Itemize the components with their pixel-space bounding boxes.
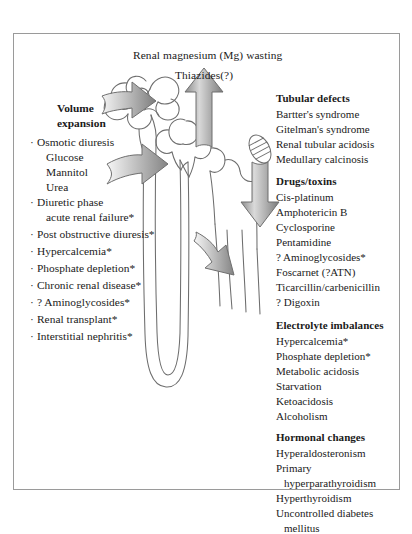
list-item-label: Glucose (46, 152, 83, 163)
section-item: Pentamidine (276, 237, 331, 248)
section-item: Metabolic acidosis (276, 366, 359, 377)
list-item: · (30, 297, 34, 308)
section-item: ? Aminoglycosides* (276, 252, 366, 263)
section-item: Hyperaldosteronism (276, 448, 366, 459)
section-item: Cyclosporine (276, 222, 335, 233)
list-item-label: Post obstructive diuresis* (37, 229, 155, 240)
section-item: Amphotericin B (276, 207, 347, 218)
section-item: Alcoholism (276, 411, 328, 422)
section-item: Phosphate depletion* (276, 351, 371, 362)
list-item: · (30, 331, 34, 342)
volume-expansion-arrow-upper (102, 82, 156, 118)
list-item-label: Diuretic phase (37, 197, 103, 208)
list-item: · (30, 137, 34, 148)
list-item-label: Osmotic diuresis (37, 137, 114, 148)
section-heading: Electrolyte imbalances (276, 320, 384, 331)
section-item: Hyperthyroidism (276, 493, 351, 504)
list-item-label: Interstitial nephritis* (37, 331, 133, 342)
section-heading: Drugs/toxins (276, 176, 337, 187)
list-item: · (30, 280, 34, 291)
list-item-label: Hypercalcemia* (37, 246, 112, 257)
section-item: Renal tubular acidosis (276, 139, 374, 150)
list-item: · (30, 263, 34, 274)
list-item-label: Chronic renal disease* (37, 280, 141, 291)
volume-expansion-arrow-middle (107, 144, 168, 184)
section-item: Gitelman's syndrome (276, 124, 370, 135)
list-item-label: Renal transplant* (37, 314, 117, 325)
list-item-label: Urea (46, 182, 68, 193)
list-item: · (30, 314, 34, 325)
drugs-toxins-arrow-down (241, 162, 279, 227)
section-item: hyperparathyroidism (284, 478, 376, 489)
section-item: Primary (276, 463, 312, 474)
section-item: mellitus (284, 523, 320, 534)
list-item: · (30, 229, 34, 240)
volume-expansion-heading-line2: expansion (57, 118, 106, 129)
section-item: Starvation (276, 381, 321, 392)
list-item-label: acute renal failure* (46, 212, 134, 223)
loop-arrow-lower (194, 232, 234, 275)
list-item: · (30, 197, 34, 208)
tubule-segment-marker (245, 131, 276, 166)
figure-title-line2: Thiazides(?) (175, 70, 233, 81)
list-item-label: Mannitol (46, 167, 88, 178)
section-item: Foscarnet (?ATN) (276, 267, 355, 278)
section-heading: Hormonal changes (276, 432, 365, 443)
section-item: Hypercalcemia* (276, 336, 348, 347)
volume-expansion-heading-line1: Volume (57, 103, 94, 114)
list-item-label: Phosphate depletion* (37, 263, 135, 274)
figure-frame: Renal magnesium (Mg) wasting Thiazides(?… (13, 33, 400, 490)
section-item: Uncontrolled diabetes (276, 508, 373, 519)
list-item-label: ? Aminoglycosides* (37, 297, 130, 308)
section-item: Ketoacidosis (276, 396, 333, 407)
figure-title-line1: Renal magnesium (Mg) wasting (133, 50, 282, 61)
section-item: Bartter's syndrome (276, 109, 359, 120)
list-item: · (30, 246, 34, 257)
section-heading: Tubular defects (276, 93, 350, 104)
section-item: ? Digoxin (276, 297, 320, 308)
section-item: Medullary calcinosis (276, 154, 368, 165)
section-item: Ticarcillin/carbenicillin (276, 282, 380, 293)
section-item: Cis-platinum (276, 192, 334, 203)
